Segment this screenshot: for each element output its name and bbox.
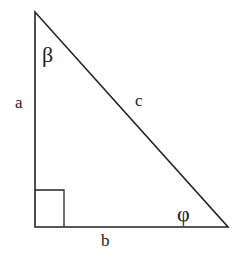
- side-b-label: b: [101, 231, 110, 250]
- side-a-label: a: [15, 93, 23, 112]
- angle-beta-label: β: [42, 42, 53, 67]
- side-c-label: c: [135, 91, 143, 110]
- right-triangle-diagram: a c b β φ: [0, 0, 244, 261]
- right-angle-marker: [35, 190, 64, 227]
- angle-phi-label: φ: [177, 201, 190, 226]
